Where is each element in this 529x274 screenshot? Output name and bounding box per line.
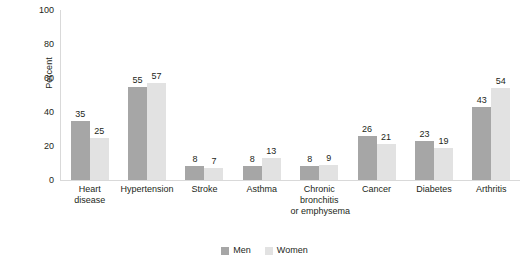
- x-axis-label-line: Chronic: [291, 184, 348, 195]
- bar-rect: [491, 88, 510, 180]
- bar-group: 813: [233, 10, 290, 180]
- bar-rect: [185, 166, 204, 180]
- bar-group: 5557: [118, 10, 175, 180]
- bar-value-label: 8: [250, 155, 255, 164]
- legend-item-women[interactable]: Women: [265, 246, 308, 255]
- bar-men[interactable]: 23: [415, 10, 434, 180]
- y-axis-tick-60: 60: [28, 74, 54, 83]
- bar-rect: [300, 166, 319, 180]
- x-axis-label-line: Cancer: [348, 184, 405, 195]
- bar-men[interactable]: 8: [185, 10, 204, 180]
- bar-value-label: 8: [192, 155, 197, 164]
- bar-rect: [472, 107, 491, 180]
- bar-women[interactable]: 19: [434, 10, 453, 180]
- bar-group: 2319: [405, 10, 462, 180]
- y-axis-tick-80: 80: [28, 40, 54, 49]
- bar-group: 89: [291, 10, 348, 180]
- bar-value-label: 7: [211, 157, 216, 166]
- bar-rect: [71, 121, 90, 181]
- x-axis-label-line: Arthritis: [463, 184, 520, 195]
- x-axis-label-line: Stroke: [176, 184, 233, 195]
- bar-value-label: 21: [381, 133, 391, 142]
- bar-value-label: 26: [362, 125, 372, 134]
- chart-legend: MenWomen: [0, 246, 529, 255]
- x-axis-label-line: or emphysema: [291, 206, 348, 217]
- x-axis-label: Chronicbronchitisor emphysema: [291, 184, 348, 217]
- bar-women[interactable]: 21: [377, 10, 396, 180]
- x-axis-label-line: Heart: [61, 184, 118, 195]
- bar-group: 4354: [463, 10, 520, 180]
- x-axis-label-line: Hypertension: [118, 184, 175, 195]
- legend-label: Men: [233, 246, 251, 255]
- legend-label: Women: [277, 246, 308, 255]
- bar-rect: [358, 136, 377, 180]
- bar-rect: [434, 148, 453, 180]
- bar-rect: [147, 83, 166, 180]
- bar-rect: [319, 165, 338, 180]
- y-axis-tick-20: 20: [28, 142, 54, 151]
- bar-rect: [90, 138, 109, 181]
- bar-women[interactable]: 13: [262, 10, 281, 180]
- bar-value-label: 35: [75, 110, 85, 119]
- bar-value-label: 13: [266, 147, 276, 156]
- bar-men[interactable]: 43: [472, 10, 491, 180]
- bar-women[interactable]: 7: [204, 10, 223, 180]
- bar-value-label: 19: [438, 137, 448, 146]
- bar-rect: [128, 87, 147, 181]
- bar-rect: [243, 166, 262, 180]
- bar-group: 3525: [61, 10, 118, 180]
- x-axis-label-line: disease: [61, 195, 118, 206]
- y-axis-tick-40: 40: [28, 108, 54, 117]
- bar-women[interactable]: 9: [319, 10, 338, 180]
- legend-swatch-icon: [265, 247, 273, 255]
- bar-rect: [204, 168, 223, 180]
- x-axis-label: Asthma: [233, 184, 290, 195]
- bar-rect: [415, 141, 434, 180]
- legend-swatch-icon: [221, 247, 229, 255]
- bar-value-label: 55: [133, 76, 143, 85]
- bar-group: 2621: [348, 10, 405, 180]
- bar-value-label: 57: [152, 72, 162, 81]
- grouped-bar-chart: Percent 020406080100 3525555787813892621…: [0, 0, 529, 274]
- x-axis-label-line: Diabetes: [405, 184, 462, 195]
- y-axis-tick-labels: 020406080100: [28, 10, 54, 180]
- bar-value-label: 23: [419, 130, 429, 139]
- bar-men[interactable]: 35: [71, 10, 90, 180]
- x-axis-label: Hypertension: [118, 184, 175, 195]
- bar-women[interactable]: 54: [491, 10, 510, 180]
- plot-area: 352555578781389262123194354: [61, 10, 520, 180]
- bar-group: 87: [176, 10, 233, 180]
- x-axis-category-labels: HeartdiseaseHypertensionStrokeAsthmaChro…: [61, 184, 520, 230]
- bar-rect: [377, 144, 396, 180]
- y-axis-tick-0: 0: [28, 176, 54, 185]
- bar-men[interactable]: 8: [300, 10, 319, 180]
- x-axis-label: Heartdisease: [61, 184, 118, 206]
- bar-value-label: 43: [477, 96, 487, 105]
- y-axis-tick-100: 100: [28, 6, 54, 15]
- legend-item-men[interactable]: Men: [221, 246, 251, 255]
- x-axis-label: Diabetes: [405, 184, 462, 195]
- bar-men[interactable]: 55: [128, 10, 147, 180]
- x-axis-line: [60, 180, 520, 181]
- bar-women[interactable]: 57: [147, 10, 166, 180]
- x-axis-label-line: Asthma: [233, 184, 290, 195]
- bar-value-label: 25: [94, 127, 104, 136]
- bar-men[interactable]: 26: [358, 10, 377, 180]
- bar-value-label: 54: [496, 77, 506, 86]
- x-axis-label: Stroke: [176, 184, 233, 195]
- bar-value-label: 8: [307, 155, 312, 164]
- x-axis-label-line: bronchitis: [291, 195, 348, 206]
- bar-rect: [262, 158, 281, 180]
- x-axis-label: Cancer: [348, 184, 405, 195]
- bar-women[interactable]: 25: [90, 10, 109, 180]
- x-axis-label: Arthritis: [463, 184, 520, 195]
- bar-value-label: 9: [326, 154, 331, 163]
- bar-men[interactable]: 8: [243, 10, 262, 180]
